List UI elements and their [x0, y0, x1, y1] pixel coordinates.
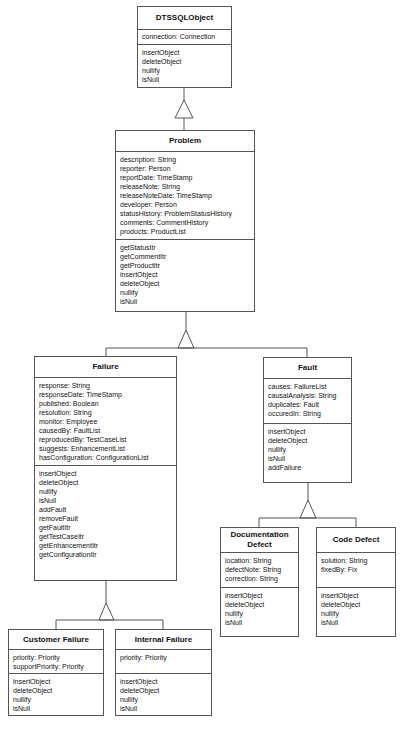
attributes: solution: String fixedBy: Fix: [317, 553, 395, 588]
attribute: reporter: Person: [120, 164, 250, 173]
class-documentation-defect: Documentation Defect location: String de…: [220, 527, 299, 637]
method: deleteObject: [120, 279, 250, 288]
methods: insertObject deleteObject nullify isNull: [116, 674, 211, 716]
method: nullify: [120, 288, 250, 297]
class-name: Code Defect: [317, 528, 395, 553]
method: deleteObject: [120, 686, 207, 695]
method: getTestCaseItr: [39, 532, 172, 541]
methods: insertObject deleteObject nullify isNull: [9, 674, 103, 716]
attribute: reproducedBy: TestCaseList: [39, 435, 172, 444]
attribute: releaseNote: String: [120, 182, 250, 191]
method: insertObject: [268, 427, 347, 436]
attribute: causes: FailureList: [268, 382, 347, 391]
method: insertObject: [321, 591, 391, 600]
method: nullify: [321, 609, 391, 618]
method: insertObject: [39, 469, 172, 478]
attribute: products: ProductList: [120, 227, 250, 236]
method: isNull: [225, 618, 294, 627]
attribute: releaseNoteDate: TimeStamp: [120, 191, 250, 200]
attribute: duplicates: Fault: [268, 400, 347, 409]
method: nullify: [39, 487, 172, 496]
class-name: Failure: [35, 357, 176, 378]
attribute: connection: Connection: [142, 32, 227, 41]
attribute: developer: Person: [120, 200, 250, 209]
method: getCommentItr: [120, 252, 250, 261]
method: isNull: [120, 704, 207, 713]
attributes: causes: FailureList causalAnalysis: Stri…: [264, 379, 351, 424]
method: isNull: [268, 454, 347, 463]
method: getEnhancementItr: [39, 541, 172, 550]
attribute: defectNote: String: [225, 565, 294, 574]
method: insertObject: [225, 591, 294, 600]
method: isNull: [120, 297, 250, 306]
method: deleteObject: [13, 686, 99, 695]
attributes: response: String responseDate: TimeStamp…: [35, 378, 176, 466]
method: getStatusItr: [120, 243, 250, 252]
attribute: resolution: String: [39, 408, 172, 417]
method: nullify: [120, 695, 207, 704]
class-name: Documentation Defect: [221, 528, 298, 553]
method: nullify: [268, 445, 347, 454]
methods: insertObject deleteObject nullify isNull…: [35, 466, 176, 562]
method: isNull: [13, 704, 99, 713]
method: getFaultItr: [39, 523, 172, 532]
attribute: responseDate: TimeStamp: [39, 390, 172, 399]
attribute: location: String: [225, 556, 294, 565]
attribute: priority: Priority: [120, 653, 207, 662]
method: nullify: [225, 609, 294, 618]
attribute: suggests: EnhancementList: [39, 444, 172, 453]
method: deleteObject: [39, 478, 172, 487]
method: insertObject: [13, 677, 99, 686]
class-problem: Problem description: String reporter: Pe…: [115, 130, 255, 312]
attribute: priority: Priority: [13, 653, 99, 662]
class-fault: Fault causes: FailureList causalAnalysis…: [263, 357, 352, 483]
method: isNull: [39, 496, 172, 505]
attributes: location: String defectNote: String corr…: [221, 553, 298, 588]
method: insertObject: [120, 270, 250, 279]
class-name: Customer Failure: [9, 630, 103, 650]
attribute: causalAnalysis: String: [268, 391, 347, 400]
attribute: reportDate: TimeStamp: [120, 173, 250, 182]
attribute: occuredIn: String: [268, 409, 347, 418]
class-failure: Failure response: String responseDate: T…: [34, 356, 177, 581]
attributes: description: String reporter: Person rep…: [116, 152, 254, 240]
class-internal-failure: Internal Failure priority: Priority inse…: [115, 629, 212, 716]
class-customer-failure: Customer Failure priority: Priority supp…: [8, 629, 104, 716]
method: deleteObject: [142, 57, 227, 66]
class-dtssqlobject: DTSSQLObject connection: Connection inse…: [137, 6, 232, 88]
attribute: solution: String: [321, 556, 391, 565]
methods: insertObject deleteObject nullify isNull: [138, 45, 231, 87]
method: getConfigurationItr: [39, 550, 172, 559]
attribute: correction: String: [225, 574, 294, 583]
attribute: monitor: Employee: [39, 417, 172, 426]
class-name: Problem: [116, 131, 254, 152]
method: getProductItr: [120, 261, 250, 270]
methods: insertObject deleteObject nullify isNull: [221, 588, 298, 630]
attribute: published: Boolean: [39, 399, 172, 408]
attribute: hasConfiguration: ConfigurationList: [39, 453, 172, 462]
methods: insertObject deleteObject nullify isNull…: [264, 424, 351, 475]
methods: getStatusItr getCommentItr getProductItr…: [116, 240, 254, 309]
attributes: priority: Priority: [116, 650, 211, 674]
attribute: description: String: [120, 155, 250, 164]
attribute: response: String: [39, 381, 172, 390]
method: deleteObject: [225, 600, 294, 609]
attribute: causedBy: FaultList: [39, 426, 172, 435]
method: nullify: [13, 695, 99, 704]
class-name: DTSSQLObject: [138, 7, 231, 30]
attribute: fixedBy: Fix: [321, 565, 391, 574]
method: deleteObject: [268, 436, 347, 445]
method: addFault: [39, 505, 172, 514]
class-name: Internal Failure: [116, 630, 211, 650]
method: insertObject: [142, 48, 227, 57]
method: addFailure: [268, 463, 347, 472]
method: deleteObject: [321, 600, 391, 609]
method: removeFault: [39, 514, 172, 523]
method: isNull: [142, 75, 227, 84]
attributes: connection: Connection: [138, 30, 231, 45]
method: isNull: [321, 618, 391, 627]
method: insertObject: [120, 677, 207, 686]
attribute: statusHistory: ProblemStatusHistory: [120, 209, 250, 218]
method: nullify: [142, 66, 227, 75]
class-name: Fault: [264, 358, 351, 379]
